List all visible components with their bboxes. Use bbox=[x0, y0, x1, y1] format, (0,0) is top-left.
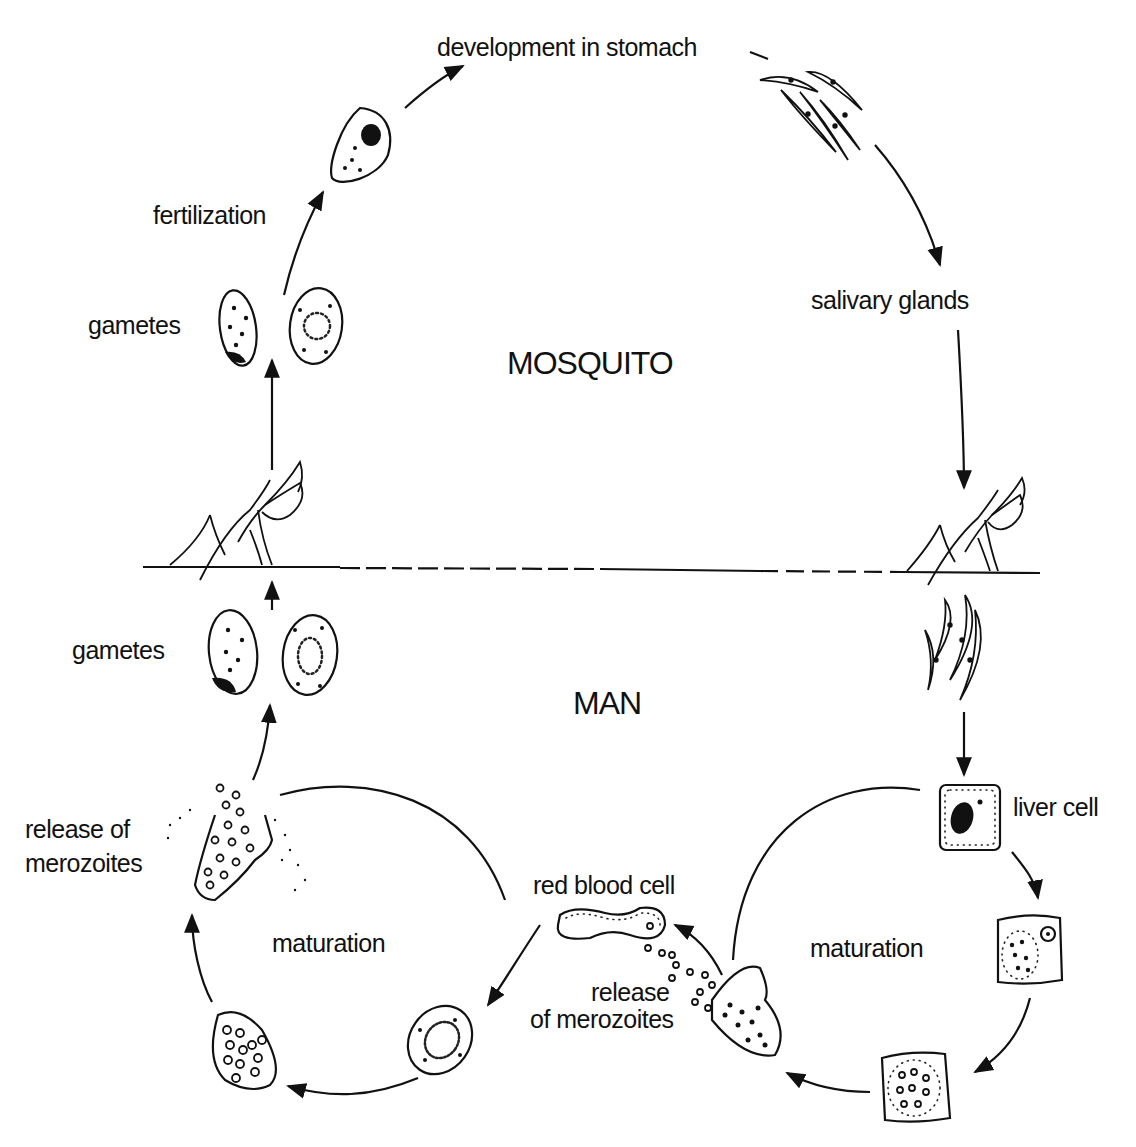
label-development: development in stomach bbox=[437, 34, 697, 62]
sporozoite-bundle-blood bbox=[925, 595, 981, 700]
red-blood-cell bbox=[558, 908, 665, 939]
arrow-to-salivary bbox=[875, 145, 940, 265]
label-fertilization: fertilization bbox=[153, 202, 266, 230]
rbc-rupture-cell bbox=[167, 785, 306, 901]
region-label-mosquito: MOSQUITO bbox=[507, 346, 673, 381]
region-label-man: MAN bbox=[573, 686, 641, 721]
label-release-mid-1: release bbox=[591, 979, 670, 1007]
liver-schizont-mature bbox=[882, 1053, 950, 1122]
label-release-left-1: release of bbox=[25, 816, 130, 844]
liver-schizont-early bbox=[998, 915, 1062, 983]
label-salivary-glands: salivary glands bbox=[811, 287, 969, 315]
arrow-schizont-to-mature bbox=[975, 998, 1030, 1072]
blood-cycle-arc-top bbox=[280, 787, 505, 900]
arrow-fertilization bbox=[284, 192, 323, 295]
label-gametes-bottom: gametes bbox=[72, 637, 164, 665]
sporozoite-bundle-stomach bbox=[760, 72, 862, 160]
liver-cell bbox=[940, 785, 1000, 850]
label-maturation-right: maturation bbox=[810, 935, 923, 963]
mosquito-icon-left bbox=[170, 462, 302, 580]
ookinete-cell bbox=[331, 108, 390, 182]
arrow-to-red-blood-cell bbox=[675, 925, 722, 975]
liver-rupture-cell bbox=[712, 967, 781, 1056]
host-divider-line bbox=[143, 567, 1040, 573]
diagram-canvas bbox=[0, 0, 1136, 1147]
arrow-rbc-to-trophozoite bbox=[488, 925, 540, 1005]
arrow-to-rbc-schizont bbox=[288, 1078, 418, 1094]
rbc-schizont-cell bbox=[213, 1012, 276, 1089]
arrow-rupture-to-gametes bbox=[253, 705, 270, 780]
gamete-cell-bottom-right bbox=[278, 612, 343, 699]
arrow-to-bite bbox=[958, 330, 964, 488]
label-release-left-2: merozoites bbox=[25, 850, 142, 878]
arrow-liver-to-schizont bbox=[1012, 852, 1038, 898]
label-release-mid-2: of merozoites bbox=[530, 1006, 674, 1034]
gamete-cell-top-left bbox=[215, 288, 261, 368]
label-red-blood-cell: red blood cell bbox=[533, 872, 675, 900]
arrow-to-liver-rupture bbox=[787, 1073, 870, 1092]
gamete-cell-top-right bbox=[285, 285, 347, 367]
arrow-to-rbc-rupture bbox=[192, 915, 212, 1002]
label-maturation-left: maturation bbox=[272, 930, 385, 958]
gamete-cell-bottom-left bbox=[205, 608, 262, 697]
arrow-to-development bbox=[405, 66, 463, 108]
trophozoite-cell bbox=[395, 993, 485, 1086]
development-dash bbox=[750, 52, 768, 59]
mosquito-icon-right bbox=[907, 478, 1025, 585]
label-liver-cell: liver cell bbox=[1013, 794, 1098, 822]
label-gametes-top: gametes bbox=[88, 312, 180, 340]
